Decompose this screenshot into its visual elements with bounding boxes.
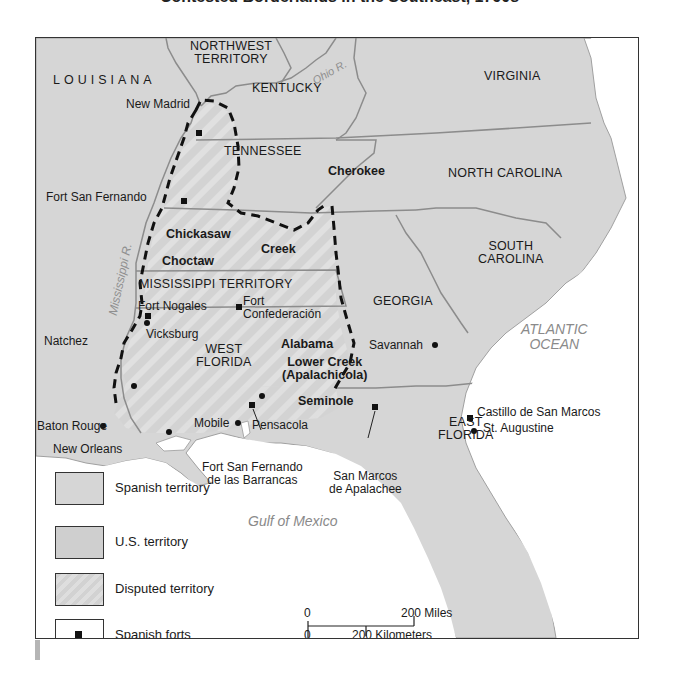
region-west-florida: WEST FLORIDA — [196, 343, 252, 369]
place-fort-nogales: Fort Nogales — [138, 300, 207, 313]
atlantic-line1: ATLANTIC — [521, 322, 588, 337]
fort-icon-barrancas — [249, 402, 255, 408]
place-mobile: Mobile — [194, 417, 229, 430]
legend-label: Disputed territory — [115, 581, 214, 596]
region-south-carolina: SOUTH CAROLINA — [478, 240, 544, 266]
legend-label: Spanish territory — [115, 480, 210, 495]
place-fort-confederacion: Fort Confederación — [243, 295, 321, 321]
city-dot-natchez — [131, 383, 137, 389]
map-title: Contested Borderlands in the Southeast, … — [0, 0, 679, 6]
place-baton-rouge: Baton Rouge — [37, 420, 107, 433]
place-new-orleans: New Orleans — [53, 443, 122, 456]
legend-item-spanish: Spanish territory — [55, 472, 285, 506]
region-north-carolina: NORTH CAROLINA — [448, 167, 562, 180]
west-florida-line2: FLORIDA — [196, 356, 252, 369]
swatch-spanish-territory — [55, 472, 104, 505]
page-edge-marker — [35, 640, 40, 660]
region-tennessee: TENNESSEE — [224, 145, 302, 158]
scale-miles-zero: 0 — [304, 606, 311, 620]
scale-km-zero: 0 — [304, 628, 311, 639]
scale-km-label: 200 Kilometers — [352, 628, 432, 639]
region-virginia: VIRGINIA — [484, 70, 540, 83]
place-fort-san-fernando: Fort San Fernando — [46, 191, 147, 204]
swatch-spanish-forts — [55, 619, 104, 639]
scale-miles-label: 200 Miles — [401, 606, 452, 620]
fort-icon-san-marcos — [372, 404, 378, 410]
place-vicksburg: Vicksburg — [146, 328, 198, 341]
legend-item-forts: Spanish forts — [55, 619, 285, 639]
region-kentucky: KENTUCKY — [252, 82, 322, 95]
region-louisiana: LOUISIANA — [53, 74, 156, 87]
tribe-lower-creek: Lower Creek (Apalachicola) — [282, 356, 367, 382]
lower-creek-line2: (Apalachicola) — [282, 369, 367, 382]
place-pensacola: Pensacola — [252, 419, 308, 432]
fort-icon — [75, 631, 82, 638]
fort-confederacion-line2: Confederación — [243, 308, 321, 321]
legend-label: Spanish forts — [115, 627, 191, 639]
label-atlantic-ocean: ATLANTIC OCEAN — [521, 322, 588, 352]
san-marcos-line2: de Apalachee — [329, 483, 402, 496]
fort-icon-confederacion — [236, 304, 242, 310]
swatch-disputed-territory — [55, 573, 104, 606]
region-georgia: GEORGIA — [373, 295, 433, 308]
atlantic-line2: OCEAN — [521, 337, 588, 352]
city-dot-mobile — [235, 420, 241, 426]
region-northwest-territory: NORTHWEST TERRITORY — [190, 40, 272, 66]
place-castillo-de-san-marcos: Castillo de San Marcos — [477, 406, 600, 419]
fort-icon-nogales — [145, 313, 151, 319]
city-dot-savannah — [432, 342, 438, 348]
fort-icon-new-madrid — [196, 130, 202, 136]
place-savannah: Savannah — [369, 339, 423, 352]
region-mississippi-territory: MISSISSIPPI TERRITORY — [139, 278, 293, 291]
place-st-augustine: St. Augustine — [483, 422, 554, 435]
city-dot-vicksburg — [144, 320, 150, 326]
legend-item-us: U.S. territory — [55, 526, 285, 560]
legend-label: U.S. territory — [115, 534, 188, 549]
map-frame: NORTHWEST TERRITORY LOUISIANA KENTUCKY V… — [35, 37, 639, 639]
city-dot-pensacola — [259, 393, 265, 399]
tribe-alabama: Alabama — [281, 338, 333, 351]
swatch-us-territory — [55, 526, 104, 559]
fort-icon-san-fernando — [181, 198, 187, 204]
map-title-cropped: Contested Borderlands in the Southeast, … — [0, 0, 679, 6]
south-carolina-line2: CAROLINA — [478, 253, 544, 266]
tribe-chickasaw: Chickasaw — [166, 228, 231, 241]
place-san-marcos: San Marcos de Apalachee — [329, 470, 402, 496]
legend-item-disputed: Disputed territory — [55, 573, 285, 607]
tribe-creek: Creek — [261, 243, 296, 256]
tribe-choctaw: Choctaw — [162, 255, 214, 268]
tribe-seminole: Seminole — [298, 395, 354, 408]
northwest-line2: TERRITORY — [190, 53, 272, 66]
tribe-cherokee: Cherokee — [328, 165, 385, 178]
place-new-madrid: New Madrid — [126, 98, 190, 111]
city-dot-new-orleans — [166, 429, 172, 435]
place-natchez: Natchez — [44, 335, 88, 348]
